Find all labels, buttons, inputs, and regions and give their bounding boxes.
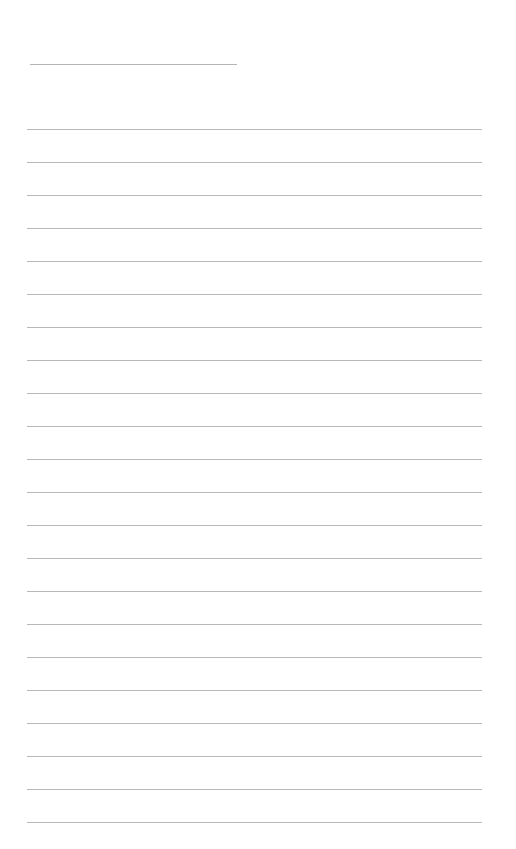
writing-line xyxy=(27,360,482,361)
writing-line xyxy=(27,756,482,757)
writing-line xyxy=(27,690,482,691)
writing-line xyxy=(27,558,482,559)
lined-page xyxy=(0,0,516,849)
writing-line xyxy=(27,723,482,724)
writing-line xyxy=(27,789,482,790)
writing-line xyxy=(27,294,482,295)
writing-line xyxy=(27,492,482,493)
ruled-lines-container xyxy=(27,0,482,849)
writing-line xyxy=(27,327,482,328)
writing-line xyxy=(27,393,482,394)
writing-line xyxy=(27,426,482,427)
writing-line xyxy=(27,195,482,196)
writing-line xyxy=(27,459,482,460)
writing-line xyxy=(27,129,482,130)
writing-line xyxy=(27,624,482,625)
writing-line xyxy=(27,228,482,229)
writing-line xyxy=(27,591,482,592)
writing-line xyxy=(27,162,482,163)
writing-line xyxy=(27,822,482,823)
writing-line xyxy=(27,261,482,262)
writing-line xyxy=(27,525,482,526)
writing-line xyxy=(27,657,482,658)
